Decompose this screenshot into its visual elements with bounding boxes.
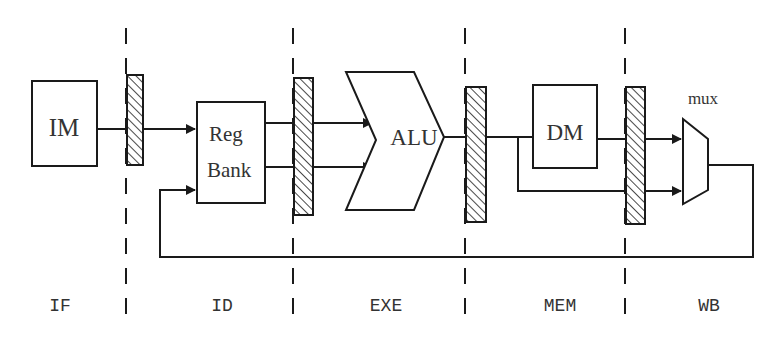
instruction-memory: IM [32, 81, 97, 166]
register-bank: Reg Bank [197, 102, 265, 203]
latch-id-exe [294, 78, 313, 215]
stage-label-wb: WB [698, 296, 720, 316]
stage-labels: IF ID EXE MEM WB [49, 296, 720, 316]
mux-label: mux [688, 89, 719, 108]
stage-label-id: ID [211, 296, 233, 316]
stage-label-exe: EXE [370, 296, 402, 316]
latch-exe-mem [466, 87, 486, 222]
pipeline-diagram: IM Reg Bank ALU DM [0, 0, 784, 349]
im-label: IM [49, 114, 80, 141]
latch-mem-wb [626, 87, 645, 224]
dm-label: DM [546, 120, 583, 145]
stage-label-if: IF [49, 296, 71, 316]
data-memory: DM [533, 85, 597, 168]
alu-label: ALU [390, 125, 438, 150]
latch-if-id [127, 75, 143, 165]
regbank-label-line2: Bank [207, 158, 252, 182]
mux: mux [683, 89, 719, 204]
regbank-label-line1: Reg [209, 122, 243, 146]
stage-label-mem: MEM [544, 296, 576, 316]
alu: ALU [346, 72, 444, 210]
